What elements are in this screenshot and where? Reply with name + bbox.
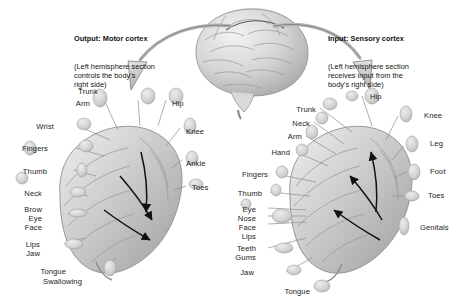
sensory-label-hip: Hip bbox=[370, 93, 382, 102]
motor-caption-heading: Output: Motor cortex bbox=[74, 34, 155, 43]
motor-label-fingers: Fingers bbox=[22, 145, 48, 154]
motor-label-swallowing: Swallowing bbox=[43, 278, 82, 287]
motor-caption-body: (Left hemisphere section controls the bo… bbox=[74, 62, 155, 90]
motor-label-neck: Neck bbox=[24, 190, 42, 199]
motor-label-trunk: Trunk bbox=[74, 88, 102, 97]
sensory-caption-heading: Input: Sensory cortex bbox=[328, 34, 409, 43]
sensory-label-leg: Leg bbox=[430, 140, 443, 149]
sensory-label-genitals: Genitals bbox=[420, 224, 449, 233]
figure-canvas: Output: Motor cortex (Left hemisphere se… bbox=[0, 0, 466, 303]
sensory-label-gums: Gums bbox=[235, 254, 256, 263]
motor-label-arm: Arm bbox=[76, 100, 90, 109]
motor-label-tongue: Tongue bbox=[40, 268, 66, 277]
sensory-label-hand: Hand bbox=[271, 149, 290, 158]
motor-label-ankle: Ankle bbox=[186, 160, 206, 169]
motor-label-knee: Knee bbox=[186, 128, 204, 137]
sensory-label-neck: Neck bbox=[292, 120, 310, 129]
sensory-label-foot: Foot bbox=[430, 168, 446, 177]
motor-label-toes: Toes bbox=[192, 184, 208, 193]
motor-label-hip: Hip bbox=[172, 100, 184, 109]
sensory-label-toes: Toes bbox=[428, 192, 444, 201]
sensory-label-knee: Knee bbox=[424, 112, 442, 121]
motor-label-wrist: Wrist bbox=[36, 123, 54, 132]
motor-label-face: Face bbox=[25, 224, 42, 233]
sensory-label-tongue: Tongue bbox=[284, 288, 310, 297]
sensory-label-jaw: Jaw bbox=[240, 269, 254, 278]
sensory-caption: Input: Sensory cortex (Left hemisphere s… bbox=[328, 16, 409, 108]
sensory-label-arm: Arm bbox=[288, 133, 302, 142]
motor-label-jaw: Jaw bbox=[26, 250, 40, 259]
sensory-caption-body: (Left hemisphere section receives input … bbox=[328, 62, 409, 90]
sensory-label-trunk: Trunk bbox=[296, 106, 316, 115]
sensory-label-fingers: Fingers bbox=[242, 171, 268, 180]
motor-label-thumb: Thumb bbox=[23, 168, 47, 177]
motor-cortex-strip bbox=[60, 126, 182, 280]
sensory-label-lips: Lips bbox=[242, 233, 256, 242]
sensory-label-thumb: Thumb bbox=[238, 190, 262, 199]
